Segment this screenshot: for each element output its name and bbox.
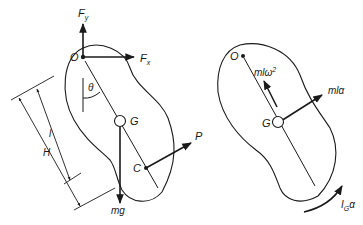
pendulum-diagram: O Fy Fx θ G mg C P l H: [0, 0, 363, 225]
left-free-body-diagram: O Fy Fx θ G mg C P l H: [11, 7, 203, 216]
label-ml-alpha: mlα: [328, 85, 345, 96]
label-fx: Fx: [140, 52, 151, 66]
dim-extension-top: [11, 76, 54, 100]
center-of-mass-g: [115, 116, 126, 127]
label-o: O: [70, 51, 79, 63]
label-g-right: G: [262, 117, 271, 129]
label-ml-omega-squared: mlω2: [254, 66, 276, 78]
pivot-point-o-right: [241, 54, 245, 58]
dim-extension-bottom: [74, 188, 115, 210]
label-mg: mg: [111, 205, 125, 216]
label-c: C: [133, 162, 141, 174]
label-o-right: O: [230, 50, 239, 62]
label-h: H: [43, 147, 51, 158]
dim-l-line: [37, 89, 70, 180]
right-kinetic-diagram: O mlω2 mlα G IGα: [218, 44, 356, 212]
label-theta: θ: [88, 82, 94, 93]
centripetal-force-arrow: [264, 81, 277, 107]
applied-force-p-arrow: [146, 143, 191, 168]
label-fy: Fy: [78, 7, 89, 22]
label-ig-alpha: IGα: [341, 199, 355, 212]
label-p: P: [195, 130, 203, 142]
center-of-mass-g-right: [273, 117, 284, 128]
label-g: G: [130, 115, 139, 127]
